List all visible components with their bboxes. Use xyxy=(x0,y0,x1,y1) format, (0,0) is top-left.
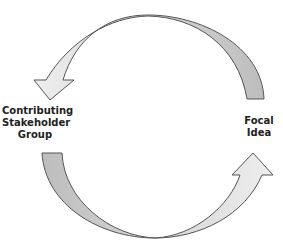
label-line: Focal xyxy=(235,115,283,127)
node-contributing-stakeholder-group: Contributing Stakeholder Group xyxy=(2,105,68,141)
arrow-stakeholder-to-focal xyxy=(42,153,273,238)
label-line: Idea xyxy=(235,127,283,139)
label-line: Contributing xyxy=(2,105,68,117)
node-focal-idea: Focal Idea xyxy=(235,115,283,139)
label-line: Stakeholder xyxy=(2,117,68,129)
label-line: Group xyxy=(2,129,68,141)
arrow-focal-to-stakeholder xyxy=(34,15,264,100)
